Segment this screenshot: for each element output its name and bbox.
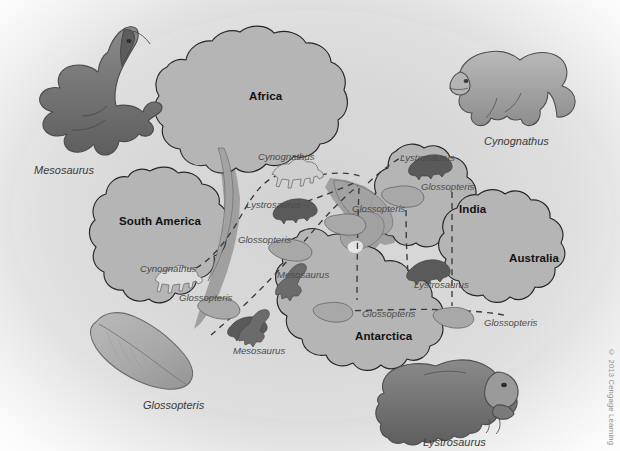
continent-label-antarctica: Antarctica	[355, 330, 412, 342]
fossil-label-mesosaurus-center: Mesosaurus	[277, 269, 329, 280]
fossil-label-glossopteris-sa: Glossopteris	[179, 292, 232, 303]
fossil-label-glossopteris-africa: Glossopteris	[238, 234, 291, 245]
fossil-label-glossopteris-indiashelf: Glossopteris	[352, 203, 405, 214]
copyright-notice: © 2013 Cengage Learning	[607, 348, 616, 445]
illustration-lystrosaurus	[376, 360, 518, 445]
fossil-label-glossopteris-india: Glossopteris	[421, 181, 474, 192]
fossil-label-cynognathus-africa: Cynognathus	[258, 151, 315, 162]
illustration-label-cynognathus: Cynognathus	[484, 135, 549, 147]
fossil-label-cynognathus-sa: Cynognathus	[140, 263, 197, 274]
fossil-label-lystrosaurus-antarctica: Lystrosaurus	[414, 279, 469, 290]
fossil-label-lystrosaurus-india: Lystrosaurus	[400, 152, 455, 163]
continent-label-india: India	[459, 203, 486, 215]
pangaea-fossil-figure: Africa South America India Australia Ant…	[0, 0, 620, 451]
fossil-label-lystrosaurus-africa: Lystrosaurus	[246, 199, 301, 210]
fossil-label-mesosaurus-lower: Mesosaurus	[233, 345, 285, 356]
fossil-label-glossopteris-australia: Glossopteris	[484, 317, 537, 328]
illustration-label-mesosaurus: Mesosaurus	[34, 164, 94, 176]
continent-label-south-america: South America	[119, 215, 201, 227]
continent-label-australia: Australia	[509, 252, 559, 264]
illustration-label-glossopteris: Glossopteris	[143, 399, 204, 411]
illustration-label-lystrosaurus: Lystrosaurus	[423, 436, 486, 448]
fossil-label-glossopteris-antarctica: Glossopteris	[362, 308, 415, 319]
continent-label-africa: Africa	[249, 90, 282, 102]
